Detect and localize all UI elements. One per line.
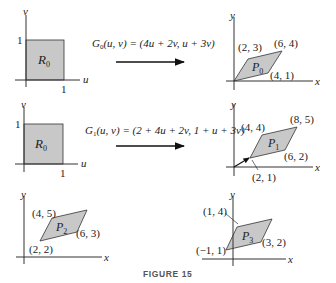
v-tick-1: 1 [15,118,21,130]
v-axis-label: v [23,5,28,17]
leader-line [252,160,258,170]
panel-p0: y x (2, 3) (6, 4) (4, 1) P0 [226,9,320,90]
y-axis-label: y [229,9,235,21]
figure-15: v u 1 1 R0 G0(u, v) = (4u + 2v, u + 3v) … [0,0,336,283]
panel-p2: y x (4, 5) (6, 3) (2, 2) P2 [16,188,109,264]
vertex-label: (−1, 1) [196,244,226,257]
leader-line [225,213,238,224]
vertex-label: (6, 3) [76,227,100,240]
vertex-label: (2, 1) [252,171,276,184]
vertex-label: (6, 2) [284,150,308,163]
translation-vector [234,158,249,167]
vertex-label: (2, 2) [29,243,53,256]
vertex-label: (8, 5) [290,113,314,126]
y-axis-label: y [20,188,26,200]
vertex-label: (1, 4) [203,205,227,218]
y-axis-label: y [230,98,236,110]
map-g1: G1(u, v) = (2 + 4u + 2v, 1 + u + 3v) [85,124,245,146]
vertex-label: (3, 2) [262,236,286,249]
map-g0: G0(u, v) = (4u + 2v, u + 3v) [92,37,215,62]
panel-p1: y x (4, 4) (8, 5) (6, 2) (2, 1) P1 [226,98,320,184]
vertex-label: (4, 4) [241,121,265,134]
map-g1-formula: G1(u, v) = (2 + 4u + 2v, 1 + u + 3v) [85,124,245,138]
map-g0-formula: G0(u, v) = (4u + 2v, u + 3v) [92,37,215,51]
u-axis-label: u [81,157,87,169]
panel-p3: y x (1, 4) (3, 2) (−1, 1) P3 [196,188,293,266]
u-tick-1: 1 [60,167,66,179]
x-axis-label: x [103,251,109,263]
vertex-label: (4, 5) [32,207,56,220]
x-axis-label: x [314,75,320,87]
x-axis-label: x [287,253,293,265]
v-axis-label: v [21,98,26,110]
v-tick-1: 1 [17,34,23,46]
vertex-label: (2, 3) [238,41,262,54]
vertex-label: (4, 1) [270,69,294,82]
u-axis-label: u [83,73,89,85]
panel-r0-mid: v u 1 1 R0 [15,98,87,179]
u-tick-1: 1 [61,83,67,95]
vertex-label: (6, 4) [274,37,298,50]
panel-r0-top: v u 1 1 R0 [15,5,89,95]
figure-caption: FIGURE 15 [143,269,192,279]
x-axis-label: x [314,161,320,173]
y-axis-label: y [229,188,235,200]
